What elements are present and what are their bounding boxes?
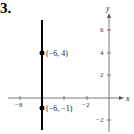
y-tick-label: 2: [100, 71, 104, 79]
coordinate-plot: x y −8 −2 6 4 2 −2 (−6, 4) (−6, −1): [0, 0, 134, 134]
point-label: (−6, 4): [46, 49, 68, 58]
y-axis-arrow-icon: [107, 13, 111, 18]
point-label: (−6, −1): [46, 104, 73, 113]
x-axis-arrow-icon: [119, 96, 124, 100]
y-tick-label: 4: [100, 49, 104, 57]
x-tick-label: −8: [15, 101, 23, 109]
x-tick-label: −2: [82, 101, 90, 109]
data-point: [40, 51, 45, 56]
y-tick-label: 6: [100, 26, 104, 34]
data-point: [40, 106, 45, 111]
x-axis-label: x: [125, 94, 130, 103]
y-tick-label: −2: [96, 116, 104, 124]
y-axis-label: y: [105, 4, 110, 13]
